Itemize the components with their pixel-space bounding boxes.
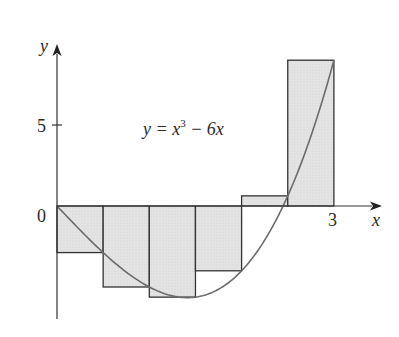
y-axis-label: y bbox=[38, 36, 48, 56]
riemann-rectangle bbox=[242, 196, 288, 206]
riemann-rectangle bbox=[195, 206, 241, 271]
riemann-rectangle bbox=[149, 206, 195, 297]
riemann-sum-chart: y 5 0 3 x y = x3 − 6x bbox=[0, 0, 399, 337]
x-axis-label: x bbox=[371, 210, 380, 230]
y-tick-label-5: 5 bbox=[37, 116, 46, 136]
x-tick-label-0: 0 bbox=[37, 206, 46, 226]
riemann-rectangle bbox=[103, 206, 149, 287]
x-tick-label-3: 3 bbox=[328, 210, 337, 230]
equation-label: y = x3 − 6x bbox=[141, 117, 224, 139]
riemann-rectangles bbox=[57, 60, 334, 297]
